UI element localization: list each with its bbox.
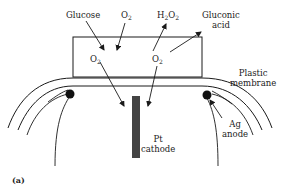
ag-anode-left bbox=[66, 90, 75, 99]
pt-cathode-bar bbox=[132, 96, 140, 158]
panel-label: (a) bbox=[12, 175, 25, 185]
label-pt-cathode: Ptcathode bbox=[141, 134, 175, 154]
arrow-glucose-in bbox=[86, 21, 104, 50]
label-plastic-membrane: Plasticmembrane bbox=[230, 68, 276, 88]
ag-anode-right bbox=[203, 91, 212, 100]
label-glucose: Glucose bbox=[66, 10, 100, 20]
label-o2-right: O2 bbox=[152, 54, 163, 64]
enzyme-electrode-diagram bbox=[0, 0, 288, 191]
housing-left-wall bbox=[55, 96, 70, 166]
label-o2-input: O2 bbox=[121, 10, 132, 20]
arrow-o2-left-to-cathode bbox=[100, 62, 124, 106]
label-o2-left: O2 bbox=[90, 54, 101, 64]
housing-left-arc-inner bbox=[48, 90, 68, 102]
label-gluconic-acid: Gluconicacid bbox=[202, 10, 240, 30]
label-ag-anode: Aganode bbox=[222, 119, 248, 139]
arrow-gluconic-out bbox=[170, 32, 201, 52]
housing-right-wall bbox=[207, 98, 218, 166]
label-h2o2: H2O2 bbox=[157, 10, 179, 20]
housing-left-arc-outer bbox=[27, 94, 68, 135]
